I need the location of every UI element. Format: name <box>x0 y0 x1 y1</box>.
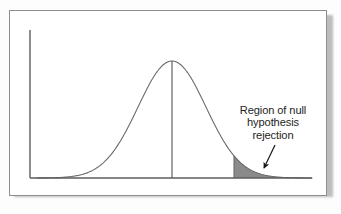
rejection-region-label: Region of null hypothesis rejection <box>230 104 316 141</box>
label-line-3: rejection <box>230 129 316 141</box>
annotation-arrow <box>264 145 275 168</box>
figure-root: Region of null hypothesis rejection <box>0 0 341 214</box>
label-line-1: Region of null <box>230 104 316 116</box>
label-line-2: hypothesis <box>230 116 316 128</box>
